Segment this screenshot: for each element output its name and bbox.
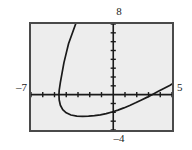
graph-window [29, 22, 174, 132]
y-min-label: –4 [102, 133, 136, 144]
calculator-graph-screenshot: 8 –7 5 –4 [0, 0, 192, 150]
x-max-label: 5 [177, 82, 191, 93]
function-curve [59, 24, 172, 116]
y-max-label: 8 [106, 6, 132, 17]
graph-plot-area [31, 24, 172, 130]
x-min-label: –7 [2, 82, 27, 93]
